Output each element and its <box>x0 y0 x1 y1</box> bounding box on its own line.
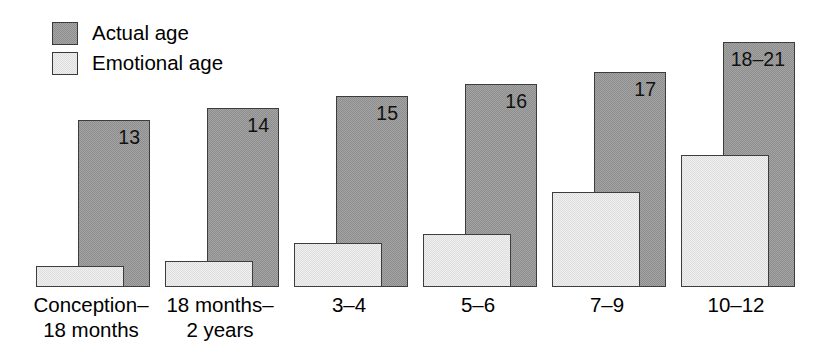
chart-root: Actual age Emotional age 13Conception–18… <box>0 0 819 358</box>
bar-value-label: 15 <box>376 103 398 124</box>
bar-emotional-age[interactable] <box>36 266 124 287</box>
category-label: Conception–18 months <box>16 292 166 342</box>
category-label: 7–9 <box>532 292 682 317</box>
category-label: 3–4 <box>274 292 424 317</box>
bar-value-label: 17 <box>634 79 656 100</box>
bar-value-label: 13 <box>118 127 140 148</box>
bar-emotional-age[interactable] <box>681 155 769 287</box>
plot-area: 13Conception–18 months1418 months–2 year… <box>0 0 819 358</box>
category-label-line-1: 3–4 <box>332 293 366 316</box>
category-label-line-2: 2 years <box>145 317 295 342</box>
bar-emotional-age[interactable] <box>423 234 511 287</box>
bar-actual-age[interactable]: 13 <box>78 120 150 287</box>
bar-value-label: 18–21 <box>731 49 785 70</box>
bar-emotional-age[interactable] <box>294 243 382 287</box>
category-label-line-1: 10–12 <box>707 293 764 316</box>
category-label-line-1: 18 months– <box>166 293 273 316</box>
category-label-line-1: 5–6 <box>461 293 495 316</box>
category-label: 5–6 <box>403 292 553 317</box>
bar-value-label: 16 <box>505 91 527 112</box>
category-label-line-1: Conception– <box>33 293 148 316</box>
bar-value-label: 14 <box>247 115 269 136</box>
category-label: 10–12 <box>661 292 811 317</box>
bar-emotional-age[interactable] <box>165 261 253 287</box>
category-label-line-2: 18 months <box>16 317 166 342</box>
category-label: 18 months–2 years <box>145 292 295 342</box>
bar-emotional-age[interactable] <box>552 192 640 287</box>
category-label-line-1: 7–9 <box>590 293 624 316</box>
